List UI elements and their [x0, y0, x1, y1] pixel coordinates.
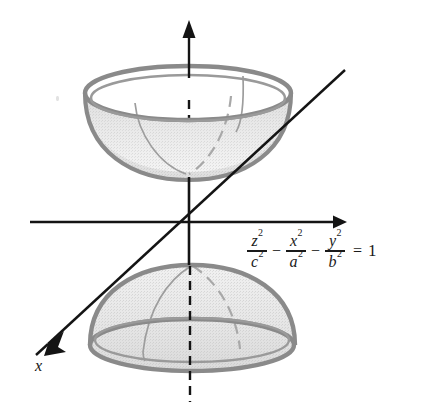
equation-equals-sign: =	[353, 242, 362, 260]
equation-term-y-over-b: y2 b2	[325, 232, 345, 270]
fraction-bar	[247, 250, 267, 252]
x-axis-label: x	[35, 357, 42, 375]
fraction-bar	[286, 250, 306, 252]
equation-right-hand-side: 1	[368, 241, 377, 261]
figure-canvas: x z2 c2 − x2 a2 − y2 b2 = 1	[0, 0, 444, 407]
equation-minus-1: −	[272, 242, 281, 260]
hyperboloid-two-sheets-diagram	[0, 0, 444, 407]
z-axis-arrowhead	[183, 20, 196, 38]
equation-denominator-a: a2	[288, 253, 305, 270]
equation-denominator-c: c2	[249, 253, 265, 270]
upper-sheet-rim-inner	[91, 75, 285, 121]
fraction-bar	[325, 250, 345, 252]
upper-sheet-surface	[85, 66, 291, 180]
scan-speck-artifact	[56, 96, 59, 101]
equation-minus-2: −	[311, 242, 320, 260]
equation-numerator-z: z2	[249, 232, 264, 249]
surface-equation: z2 c2 − x2 a2 − y2 b2 = 1	[246, 232, 377, 270]
lower-sheet-surface	[90, 265, 295, 371]
equation-denominator-b: b2	[327, 253, 344, 270]
equation-term-x-over-a: x2 a2	[286, 232, 306, 270]
equation-numerator-y: y2	[327, 232, 343, 249]
equation-term-z-over-c: z2 c2	[247, 232, 267, 270]
equation-numerator-x: x2	[288, 232, 304, 249]
